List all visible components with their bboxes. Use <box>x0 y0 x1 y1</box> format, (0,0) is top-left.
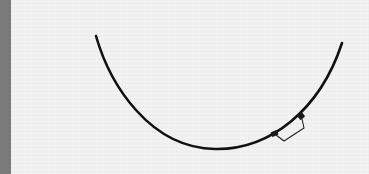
curved-wire <box>96 36 342 149</box>
curved-wire-illustration <box>0 0 369 174</box>
clasp-icon <box>270 112 305 141</box>
